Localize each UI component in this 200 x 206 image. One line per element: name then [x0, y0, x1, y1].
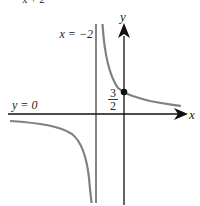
- y-intercept-point: [121, 89, 128, 96]
- intercept-denominator: 2: [110, 99, 116, 113]
- cropped-header-text: x + 2: [22, 0, 45, 5]
- horizontal-asymptote-label: y = 0: [11, 98, 37, 112]
- graph-canvas: x + 2 x y x = −2 y = 0 3 2: [0, 0, 200, 206]
- intercept-numerator: 3: [110, 86, 116, 100]
- x-axis-label: x: [188, 107, 195, 122]
- vertical-asymptote-label: x = −2: [58, 27, 93, 41]
- curve-lower-branch: [10, 121, 92, 203]
- y-axis-arrow-icon: [118, 23, 130, 38]
- y-axis-label: y: [118, 9, 126, 24]
